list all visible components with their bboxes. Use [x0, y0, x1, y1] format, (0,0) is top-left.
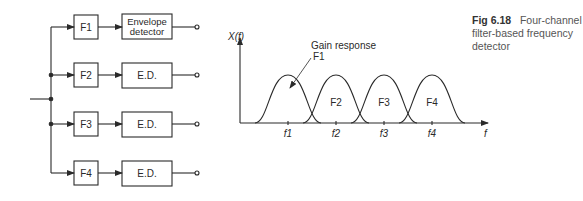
- junction-dot: [49, 97, 53, 101]
- curve-label: F2: [330, 97, 342, 108]
- curve-label: F3: [378, 97, 390, 108]
- detector-label: E.D.: [137, 70, 156, 81]
- filter-label: F1: [80, 22, 92, 33]
- detector-label: E.D.: [137, 119, 156, 130]
- output-terminal: [195, 25, 199, 29]
- curve-label: F4: [426, 97, 438, 108]
- channel-1: [51, 14, 199, 39]
- output-terminal: [195, 73, 199, 77]
- block-diagram: [30, 14, 199, 186]
- filter-label: F2: [80, 70, 92, 81]
- figure-caption: Fig 6.18 Four-channel filter-based frequ…: [472, 14, 582, 53]
- y-axis-label: X(f): [227, 31, 244, 42]
- channel-3: [51, 112, 199, 137]
- tick-label: f4: [428, 128, 437, 139]
- detector-label: E.D.: [137, 168, 156, 179]
- filter-label: F4: [80, 168, 92, 179]
- detector-label: detector: [130, 26, 164, 37]
- channel-2: [51, 63, 199, 88]
- annotation-label: F1: [313, 51, 325, 62]
- detector-label: Envelope: [127, 16, 167, 27]
- filter-label: F3: [80, 119, 92, 130]
- tick-label: f3: [380, 128, 389, 139]
- channel-4: [51, 161, 199, 186]
- tick-label: f1: [284, 128, 292, 139]
- x-axis-label: f: [484, 128, 488, 139]
- annotation-leader: [290, 58, 311, 88]
- tick-label: f2: [332, 128, 341, 139]
- output-terminal: [195, 122, 199, 126]
- figure-number: Fig 6.18: [472, 14, 511, 26]
- gain-response-graph: [240, 38, 488, 125]
- annotation-label: Gain response: [311, 40, 376, 51]
- output-terminal: [195, 171, 199, 175]
